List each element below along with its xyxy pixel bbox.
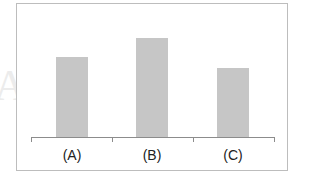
category-label-b: (B) xyxy=(132,147,172,163)
x-axis xyxy=(31,137,274,138)
x-axis-tick xyxy=(274,137,275,142)
category-label-a: (A) xyxy=(52,147,92,163)
bar-a xyxy=(56,57,88,137)
x-axis-tick xyxy=(112,137,113,142)
x-axis-tick xyxy=(31,137,32,142)
category-label-c: (C) xyxy=(213,147,253,163)
bar-b xyxy=(136,38,168,137)
x-axis-tick xyxy=(193,137,194,142)
bar-c xyxy=(217,68,249,137)
